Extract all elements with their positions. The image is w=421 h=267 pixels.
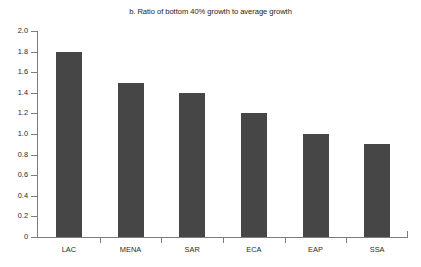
y-axis-tick-label: 1.8 — [0, 48, 28, 56]
y-axis-tick-label: 0.4 — [0, 192, 28, 200]
bar — [179, 93, 205, 237]
x-axis-tick — [346, 237, 347, 243]
y-axis-tick-label: 0.6 — [0, 171, 28, 179]
y-axis-tick — [31, 216, 37, 217]
y-axis-tick — [31, 113, 37, 114]
x-axis-tick-label: SSA — [347, 245, 407, 254]
x-axis-tick — [100, 237, 101, 243]
y-axis-tick-label: 0.2 — [0, 212, 28, 220]
y-axis-tick — [31, 72, 37, 73]
x-axis-tick — [285, 237, 286, 243]
y-axis-tick — [31, 175, 37, 176]
x-axis-tick-label: MENA — [101, 245, 161, 254]
bar-chart-figure: b. Ratio of bottom 40% growth to average… — [0, 0, 421, 267]
y-axis-tick-label: 0 — [0, 233, 28, 241]
y-axis-tick-label: 1.6 — [0, 68, 28, 76]
bar — [56, 52, 82, 237]
y-axis-tick-label: 1.0 — [0, 130, 28, 138]
x-axis-tick — [223, 237, 224, 243]
y-axis-tick-label: 2.0 — [0, 27, 28, 35]
x-axis-tick-label: LAC — [39, 245, 99, 254]
y-axis-tick — [31, 93, 37, 94]
x-axis-tick-label: ECA — [224, 245, 284, 254]
y-axis-tick — [31, 31, 37, 32]
y-axis-tick — [31, 196, 37, 197]
y-axis-tick — [31, 134, 37, 135]
x-axis-tick — [161, 237, 162, 243]
bar — [118, 83, 144, 238]
y-axis-tick-label: 0.8 — [0, 151, 28, 159]
y-axis-tick — [31, 237, 37, 238]
bar — [364, 144, 390, 237]
y-axis-tick-label: 1.2 — [0, 109, 28, 117]
x-axis-tick-label: SAR — [162, 245, 222, 254]
chart-title: b. Ratio of bottom 40% growth to average… — [0, 7, 421, 16]
bar — [303, 134, 329, 237]
bars-layer — [38, 31, 408, 237]
y-axis-tick — [31, 52, 37, 53]
y-axis-tick-label: 1.4 — [0, 89, 28, 97]
y-axis-tick — [31, 155, 37, 156]
bar — [241, 113, 267, 237]
x-axis-tick-label: EAP — [286, 245, 346, 254]
